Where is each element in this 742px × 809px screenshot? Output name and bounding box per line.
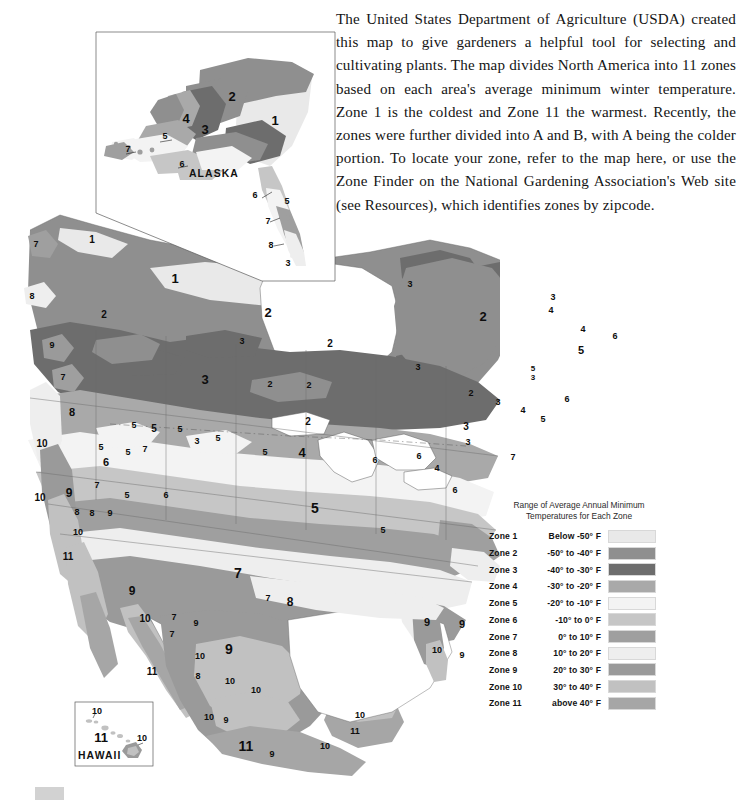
legend-zone-name: Zone 5 — [489, 598, 535, 608]
zone-label: 7 — [60, 372, 65, 382]
zone-label: 7 — [234, 565, 242, 581]
legend: Range of Average Annual Minimum Temperat… — [489, 500, 679, 713]
zone-label: 8 — [29, 291, 34, 301]
zone-label: 9 — [49, 340, 54, 350]
legend-zone-temperature: 30° to 40° F — [535, 682, 608, 692]
zone-label: 6 — [612, 331, 617, 341]
legend-zone-temperature: -10° to 0° F — [535, 615, 608, 625]
zone-label: 2 — [327, 338, 333, 349]
zone-label: 4 — [548, 305, 553, 315]
zone-label: 4 — [182, 111, 190, 126]
zone-label: 2 — [228, 89, 235, 104]
zone-label: 7 — [33, 239, 38, 249]
zone-label: 5 — [531, 364, 536, 373]
zone-label: 4 — [520, 405, 525, 415]
legend-row: Zone 6-10° to 0° F — [489, 613, 679, 627]
zone-label: 11 — [239, 738, 254, 754]
zone-label: 6 — [179, 159, 184, 169]
zone-label: 9 — [459, 650, 464, 660]
legend-row: Zone 70° to 10° F — [489, 629, 679, 643]
legend-zone-name: Zone 10 — [489, 682, 535, 692]
legend-color-swatch — [608, 597, 656, 610]
legend-color-swatch — [608, 547, 656, 560]
legend-color-swatch — [608, 630, 656, 643]
zone-label: 3 — [495, 397, 500, 407]
legend-zone-name: Zone 11 — [489, 698, 535, 708]
legend-zone-name: Zone 9 — [489, 665, 535, 675]
zone-label: 6 — [103, 456, 109, 468]
zone-label: 5 — [177, 424, 182, 434]
legend-row: Zone 2-50° to -40° F — [489, 546, 679, 560]
zone-label: 8 — [69, 406, 75, 418]
zone-label: 1 — [271, 113, 278, 128]
legend-zone-temperature: 0° to 10° F — [535, 632, 608, 642]
zone-label: 5 — [131, 420, 136, 430]
zone-label: 10 — [320, 741, 330, 751]
zone-label: 11 — [350, 726, 360, 736]
zone-label: 3 — [239, 336, 244, 346]
zone-label: 2 — [267, 379, 272, 389]
zone-label: 4 — [298, 445, 306, 460]
zone-label: 10 — [195, 651, 205, 661]
zone-label: 5 — [98, 442, 103, 452]
legend-color-swatch — [608, 580, 656, 593]
legend-title-line1: Range of Average Annual Minimum — [513, 500, 644, 510]
zone-label: 8 — [287, 595, 294, 609]
zone-label: 7 — [510, 452, 515, 462]
zone-label: 1 — [89, 234, 95, 245]
zone-label: 9 — [107, 508, 112, 518]
legend-zone-name: Zone 6 — [489, 615, 535, 625]
zone-label: 2 — [264, 305, 271, 320]
legend-title-line2: Temperatures for Each Zone — [526, 511, 632, 521]
legend-row: Zone 1Below -50° F — [489, 529, 679, 543]
zone-label: 10 — [225, 676, 235, 686]
zone-label: 3 — [201, 372, 208, 387]
zone-label: 6 — [416, 451, 421, 461]
legend-zone-temperature: -50° to -40° F — [535, 548, 608, 558]
zone-label: 9 — [66, 486, 73, 500]
zone-label: 1 — [171, 271, 178, 286]
zone-label: 2 — [305, 416, 311, 427]
legend-zone-name: Zone 3 — [489, 565, 535, 575]
zone-label: 10 — [432, 645, 442, 655]
legend-zone-name: Zone 1 — [489, 531, 535, 541]
zone-label: 5 — [124, 490, 129, 500]
zone-label: 10 — [92, 706, 102, 716]
legend-row: Zone 5-20° to -10° F — [489, 596, 679, 610]
zone-label: 5 — [125, 447, 130, 457]
legend-color-swatch — [608, 680, 656, 693]
zone-label: 5 — [151, 423, 157, 434]
zone-label: 5 — [578, 344, 584, 356]
legend-color-swatch — [608, 663, 656, 676]
legend-color-swatch — [608, 563, 656, 576]
zone-label: 4 — [434, 463, 439, 473]
zone-label: 3 — [285, 258, 290, 268]
zone-label: 4 — [580, 324, 585, 334]
zone-label: 7 — [169, 629, 174, 639]
zone-label: 10 — [204, 712, 214, 722]
zone-label: 10 — [251, 685, 261, 695]
legend-zone-temperature: -20° to -10° F — [535, 598, 608, 608]
zone-label: 5 — [284, 196, 289, 206]
zone-label: 9 — [459, 618, 465, 630]
legend-zone-temperature: 10° to 20° F — [535, 648, 608, 658]
legend-zone-temperature: Below -50° F — [535, 531, 608, 541]
zone-label: 7 — [171, 612, 176, 622]
legend-color-swatch — [608, 613, 656, 626]
zone-label: 11 — [147, 666, 158, 677]
legend-row: Zone 4-30° to -20° F — [489, 579, 679, 593]
zone-label: 11 — [94, 730, 108, 745]
zone-label: 9 — [193, 618, 198, 628]
zone-label: 10 — [73, 527, 83, 537]
zone-label: 5 — [380, 525, 385, 535]
zone-label: 5 — [215, 433, 220, 443]
zone-label: 9 — [129, 584, 136, 598]
legend-color-swatch — [608, 647, 656, 660]
legend-row: Zone 810° to 20° F — [489, 646, 679, 660]
zone-label: 7 — [94, 480, 99, 490]
legend-row: Zone 3-40° to -30° F — [489, 563, 679, 577]
legend-zone-name: Zone 7 — [489, 632, 535, 642]
zone-label: 3 — [550, 292, 555, 302]
zone-label: 2 — [306, 380, 311, 390]
hawaii-inset-label: HAWAII — [78, 750, 122, 761]
